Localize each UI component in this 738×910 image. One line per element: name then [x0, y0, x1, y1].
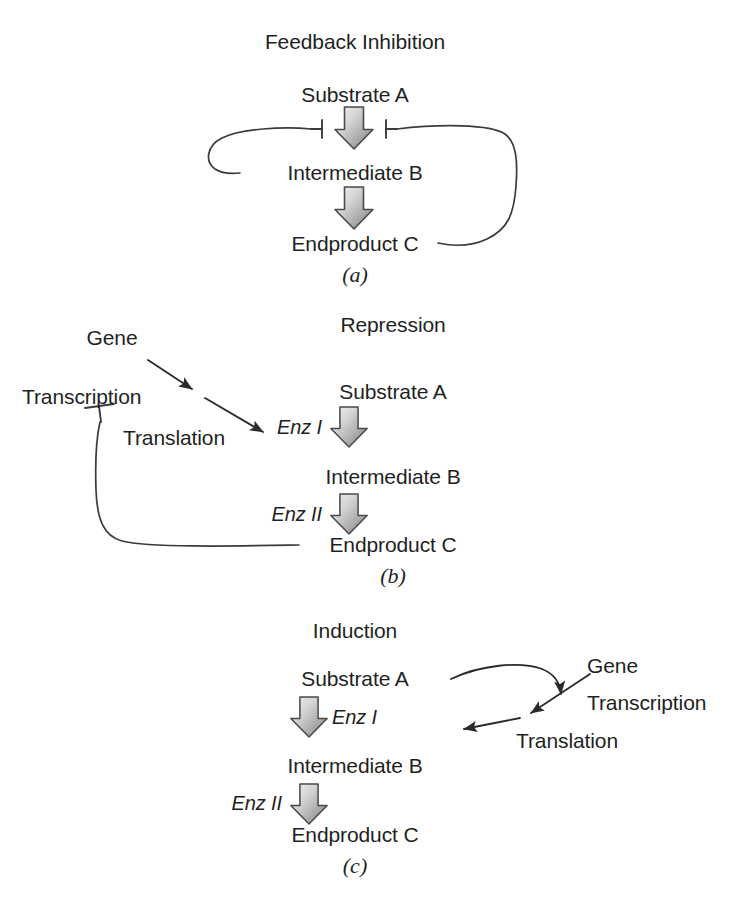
- panel-b-enzyme-1-label: Enz I: [277, 417, 322, 437]
- panel-b-title: Repression: [340, 314, 445, 335]
- panel-b-gene-label: Gene: [87, 327, 138, 348]
- panel-c-transcription-label: Transcription: [587, 692, 706, 713]
- panel-a-feedback-curve-endproduct: [397, 126, 517, 245]
- panel-b-node-substrate: Substrate A: [339, 381, 446, 402]
- panel-b-node-endproduct: Endproduct C: [329, 534, 456, 555]
- panel-b-node-intermediate: Intermediate B: [325, 466, 460, 487]
- panel-c-node-intermediate: Intermediate B: [287, 755, 422, 776]
- panel-c-arrow-step-2: [291, 784, 327, 824]
- figure-panel-group: Feedback Inhibition Substrate A Intermed…: [0, 0, 738, 910]
- panel-c-title: Induction: [313, 620, 397, 641]
- panel-b-arrow-step-2: [331, 494, 367, 534]
- panel-a-arrow-step-2: [335, 187, 373, 229]
- panel-a-node-substrate: Substrate A: [301, 84, 408, 105]
- panel-a-inhibition-bar-right: [386, 120, 397, 138]
- panel-b-translation-label: Translation: [123, 427, 225, 448]
- panel-c-arrow-step-1: [291, 697, 327, 737]
- panel-a-node-endproduct: Endproduct C: [291, 233, 418, 254]
- panel-c-label: (c): [343, 853, 367, 879]
- panel-b-arrow-gene-to-transcription: [148, 360, 192, 389]
- panel-a-arrow-step-1: [335, 107, 373, 149]
- panel-a-node-intermediate: Intermediate B: [287, 162, 422, 183]
- panel-c-arrow-translation-to-enzyme: [464, 718, 520, 729]
- panel-a-inhibition-bar-left: [311, 120, 322, 138]
- panel-c-node-endproduct: Endproduct C: [291, 824, 418, 845]
- panel-c-enzyme-1-label: Enz I: [332, 707, 377, 727]
- panel-c-gene-label: Gene: [587, 655, 638, 676]
- panel-b-arrow-step-1: [331, 407, 367, 447]
- panel-c-arrow-gene-to-transcription: [531, 674, 590, 713]
- panel-c-node-substrate: Substrate A: [301, 668, 408, 689]
- panel-b-transcription-label: Transcription: [22, 386, 141, 407]
- panel-c-translation-label: Translation: [516, 730, 618, 751]
- panel-b-enzyme-2-label: Enz II: [271, 504, 322, 524]
- panel-c-enzyme-2-label: Enz II: [231, 793, 282, 813]
- panel-b-label: (b): [380, 563, 406, 589]
- panel-c-arrow-substrate-to-gene: [451, 665, 561, 694]
- panel-a-label: (a): [342, 262, 368, 288]
- panel-a-title: Feedback Inhibition: [265, 31, 445, 52]
